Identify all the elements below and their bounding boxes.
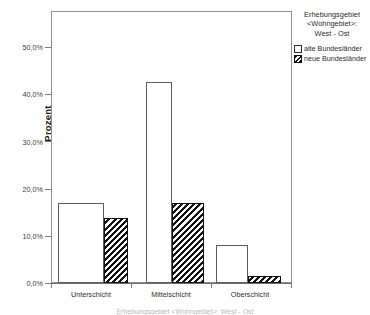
legend-swatch-hatch-icon <box>294 55 302 63</box>
x-tick-mark <box>131 283 132 288</box>
y-tick-mark <box>45 236 51 237</box>
y-tick-label: 0,0% <box>0 279 43 288</box>
legend: Erhebungsgebiet <Wohngebiet>: West - Ost… <box>294 10 370 64</box>
y-tick-label: 40,0% <box>0 90 43 99</box>
y-tick-label: 20,0% <box>0 185 43 194</box>
y-tick-label: 30,0% <box>0 138 43 147</box>
legend-title: Erhebungsgebiet <Wohngebiet>: West - Ost <box>294 10 370 38</box>
legend-item-alte-bundeslaender[interactable]: alte Bundesländer <box>294 44 370 53</box>
x-axis-line <box>51 283 292 284</box>
x-tick-mark <box>211 283 212 288</box>
x-category-label-oberschicht: Oberschicht <box>231 290 269 299</box>
footer-caption: Erhebungsgebiet <Wohngebiet>: West - Ost <box>0 308 370 315</box>
legend-label: neue Bundesländer <box>304 54 366 63</box>
legend-item-neue-bundeslaender[interactable]: neue Bundesländer <box>294 54 370 63</box>
bar-unterschicht-alte <box>58 203 104 283</box>
y-tick-mark <box>45 94 51 95</box>
bar-mittelschicht-alte <box>146 82 172 283</box>
y-tick-mark <box>45 47 51 48</box>
legend-items: alte Bundesländer neue Bundesländer <box>294 44 370 63</box>
bar-chart: Prozent 50,0% 40,0% 30,0% 20,0% 10,0% 0,… <box>0 0 370 315</box>
legend-label: alte Bundesländer <box>304 44 362 53</box>
x-category-label-unterschicht: Unterschicht <box>71 290 111 299</box>
y-tick-label: 10,0% <box>0 232 43 241</box>
bar-mittelschicht-neue <box>172 203 204 283</box>
y-tick-mark <box>45 189 51 190</box>
x-tick-mark <box>291 283 292 288</box>
x-category-label-mittelschicht: Mittelschicht <box>151 290 191 299</box>
bar-unterschicht-neue <box>104 218 128 283</box>
bar-oberschicht-neue <box>248 276 281 283</box>
bar-oberschicht-alte <box>216 245 248 283</box>
x-tick-mark <box>51 283 52 288</box>
y-tick-label: 50,0% <box>0 43 43 52</box>
legend-swatch-solid-icon <box>294 45 302 53</box>
y-tick-mark <box>45 141 51 142</box>
